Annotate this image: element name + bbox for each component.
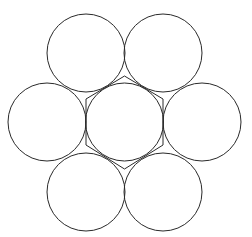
background xyxy=(0,0,252,237)
circle-packing-diagram xyxy=(0,0,252,237)
